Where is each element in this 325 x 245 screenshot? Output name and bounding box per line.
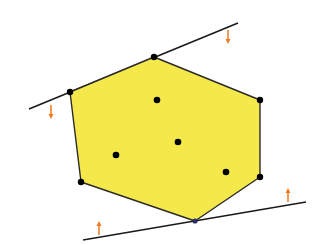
arrow-upper-left-icon xyxy=(49,105,54,119)
interior-point xyxy=(175,139,182,146)
hull-vertex xyxy=(257,97,263,103)
convex-hull-polygon xyxy=(70,57,260,221)
hull-vertex xyxy=(78,179,84,185)
arrow-upper-right-icon xyxy=(226,30,231,44)
hull-vertex xyxy=(192,218,197,223)
hull-vertex xyxy=(257,174,263,180)
interior-point xyxy=(154,97,161,104)
hull-vertex xyxy=(67,89,73,95)
convex-hull-diagram xyxy=(0,0,325,245)
arrow-lower-right-icon xyxy=(286,188,291,202)
hull-vertex xyxy=(151,54,157,60)
arrow-lower-left-icon xyxy=(97,221,102,235)
interior-point xyxy=(223,169,230,176)
interior-point xyxy=(113,152,120,159)
